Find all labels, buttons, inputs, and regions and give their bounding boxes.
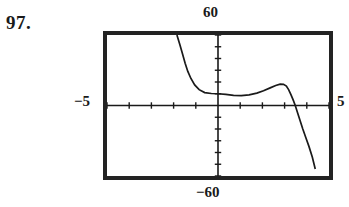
x-max-label: 5 [337,93,345,110]
calculator-viewing-window [103,31,333,180]
graph-plot-area [107,35,329,176]
exercise-number-label: 97. [6,12,31,34]
graph-curve [177,35,315,169]
y-min-label: −60 [196,184,220,201]
curve-group [177,35,315,169]
figure-root: 97. 60 −60 −5 5 [0,0,349,207]
y-max-label: 60 [203,4,218,21]
x-min-label: −5 [74,93,90,110]
